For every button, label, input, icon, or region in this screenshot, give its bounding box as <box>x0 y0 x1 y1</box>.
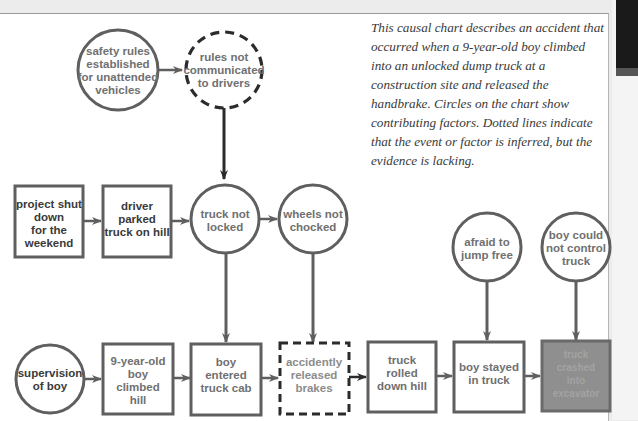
node-accidently-released-brakes: accidently released brakes <box>280 343 349 414</box>
svg-text:truck cab: truck cab <box>200 382 251 394</box>
node-safety-rules-established: safety rules established for unattended … <box>78 30 159 110</box>
svg-text:rolled: rolled <box>386 367 417 379</box>
node-wheels-not-chocked: wheels not chocked <box>279 185 347 253</box>
svg-text:truck: truck <box>562 255 591 267</box>
svg-text:truck: truck <box>564 349 589 360</box>
svg-text:jump free: jump free <box>460 249 513 261</box>
node-boy-stayed-in-truck: boy stayed in truck <box>454 342 524 412</box>
svg-text:climbed: climbed <box>116 381 159 393</box>
svg-text:project shut: project shut <box>16 198 82 210</box>
svg-text:excavator: excavator <box>553 388 600 399</box>
svg-text:boy: boy <box>128 368 149 380</box>
node-truck-rolled-down-hill: truck rolled down hill <box>368 342 436 412</box>
svg-text:down hill: down hill <box>377 380 427 392</box>
node-boy-climbed-hill: 9-year-old boy climbed hill <box>103 344 173 414</box>
svg-text:into: into <box>567 375 585 386</box>
svg-text:parked: parked <box>118 213 156 225</box>
svg-text:driver: driver <box>121 200 153 212</box>
svg-text:hill: hill <box>130 394 147 406</box>
svg-text:9-year-old: 9-year-old <box>111 355 166 367</box>
svg-text:locked: locked <box>207 221 243 233</box>
svg-text:to drivers: to drivers <box>198 77 250 89</box>
svg-text:truck: truck <box>388 354 417 366</box>
node-supervision-of-boy: supervision of boy <box>16 345 84 413</box>
svg-text:entered: entered <box>205 369 247 381</box>
svg-text:boy could: boy could <box>549 229 603 241</box>
svg-text:safety rules: safety rules <box>86 45 150 57</box>
svg-text:weekend: weekend <box>24 237 74 249</box>
node-afraid-to-jump-free: afraid to jump free <box>453 213 521 281</box>
svg-text:communicated: communicated <box>183 64 264 76</box>
svg-text:vehicles: vehicles <box>95 84 140 96</box>
svg-text:truck not: truck not <box>200 208 249 220</box>
svg-text:wheels not: wheels not <box>282 208 343 220</box>
svg-text:rules not: rules not <box>200 51 249 63</box>
svg-text:not control: not control <box>546 242 606 254</box>
node-project-shut-down: project shut down for the weekend <box>15 186 83 257</box>
node-driver-parked-truck: driver parked truck on hill <box>103 186 171 257</box>
svg-text:down: down <box>34 211 64 223</box>
node-truck-not-locked: truck not locked <box>191 185 259 253</box>
svg-text:released: released <box>291 369 338 381</box>
svg-text:boy: boy <box>216 356 237 368</box>
svg-text:of boy: of boy <box>33 380 68 392</box>
svg-text:chocked: chocked <box>290 221 337 233</box>
svg-text:accidently: accidently <box>286 356 343 368</box>
node-rules-not-communicated: rules not communicated to drivers <box>183 32 264 108</box>
svg-text:truck on hill: truck on hill <box>104 226 169 238</box>
svg-text:afraid to: afraid to <box>464 236 509 248</box>
svg-text:crashed: crashed <box>557 362 595 373</box>
node-truck-crashed-final-event: truck crashed into excavator <box>542 341 610 411</box>
node-boy-entered-truck-cab: boy entered truck cab <box>191 344 261 415</box>
svg-text:for the: for the <box>31 224 67 236</box>
node-boy-could-not-control-truck: boy could not control truck <box>542 213 610 281</box>
svg-text:boy stayed: boy stayed <box>459 361 519 373</box>
svg-text:supervision: supervision <box>18 367 83 379</box>
svg-text:established: established <box>86 58 149 70</box>
svg-text:brakes: brakes <box>295 382 332 394</box>
svg-text:for unattended: for unattended <box>78 71 159 83</box>
svg-text:in truck: in truck <box>468 374 510 386</box>
